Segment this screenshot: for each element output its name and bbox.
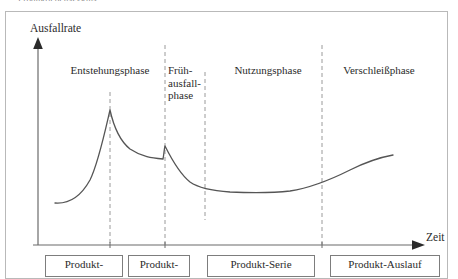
x-axis-label: Zeit [426, 231, 445, 243]
y-axis-label: Ausfallrate [30, 22, 81, 34]
stage-box-produkt-auslauf: Produkt-Auslauf [330, 255, 440, 277]
stage-box-produkt-1: Produkt- [45, 255, 123, 277]
phase-label-fruehausfallphase: Früh- ausfall- phase [168, 64, 204, 102]
y-axis [33, 37, 43, 245]
stage-box-produkt-2: Produkt- [128, 255, 190, 277]
failure-rate-curve [55, 110, 393, 203]
phase-label-entstehungsphase: Entstehungsphase [60, 64, 160, 77]
phase-label-verschleissphase: Verschleißphase [326, 64, 432, 77]
x-axis [33, 240, 425, 250]
phase-label-nutzungsphase: Nutzungsphase [218, 64, 318, 77]
stage-box-produkt-serie: Produkt-Serie [207, 255, 315, 277]
